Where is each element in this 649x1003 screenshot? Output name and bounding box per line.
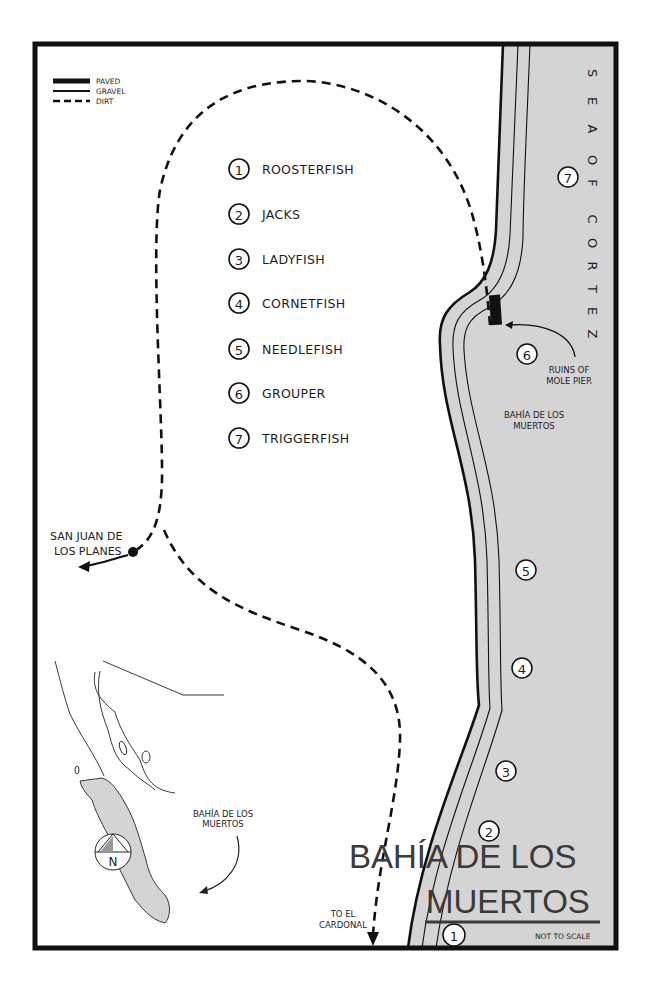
label-ruins-line1: RUINS OF	[549, 365, 590, 375]
inset-peninsula-north	[55, 661, 104, 776]
fishing-spot-7: 7	[558, 167, 578, 187]
fishing-spot-6: 6	[517, 344, 537, 364]
legend-label-paved: PAVED	[96, 77, 121, 86]
fish-name: GROUPER	[262, 386, 326, 401]
svg-text:Z: Z	[585, 330, 600, 339]
fish-key-item: 5 NEEDLEFISH	[229, 339, 343, 359]
fish-key-item: 3 LADYFISH	[229, 249, 325, 269]
fish-key-item: 4 CORNETFISH	[229, 293, 345, 313]
svg-text:5: 5	[522, 564, 530, 579]
legend: PAVED GRAVEL DIRT	[53, 77, 126, 106]
svg-text:1: 1	[450, 929, 458, 944]
svg-text:T: T	[585, 284, 600, 293]
svg-text:C: C	[585, 214, 600, 223]
compass-label: N	[109, 855, 118, 869]
svg-text:7: 7	[235, 432, 243, 447]
not-to-scale-note: NOT TO SCALE	[535, 932, 591, 941]
label-ruins-line2: MOLE PIER	[546, 376, 592, 386]
fish-name: CORNETFISH	[262, 296, 345, 311]
legend-label-gravel: GRAVEL	[96, 87, 126, 96]
fish-name: NEEDLEFISH	[262, 342, 343, 357]
svg-text:R: R	[585, 261, 600, 270]
inset-pointer-arrowhead-icon	[199, 886, 208, 894]
svg-text:6: 6	[523, 348, 531, 363]
svg-text:1: 1	[235, 163, 243, 178]
compass-north-icon: N	[95, 834, 131, 870]
san-juan-junction-dot	[128, 547, 138, 557]
label-bay-line2: MUERTOS	[513, 421, 555, 431]
label-cardonal-line2: CARDONAL	[319, 920, 367, 930]
label-bay-line1: BAHÍA DE LOS	[504, 409, 564, 420]
fish-name: TRIGGERFISH	[261, 431, 349, 446]
svg-text:5: 5	[235, 343, 243, 358]
map-title-line1: BAHÍA DE LOS	[349, 838, 576, 875]
inset-gulf-coast	[98, 671, 155, 790]
svg-text:E: E	[585, 307, 600, 315]
fish-name: JACKS	[261, 207, 300, 222]
inset-border-line	[103, 661, 224, 695]
fish-key-item: 7 TRIGGERFISH	[229, 428, 349, 448]
fishing-spot-3: 3	[496, 761, 516, 781]
svg-text:3: 3	[502, 765, 510, 780]
fish-name: LADYFISH	[262, 252, 325, 267]
svg-text:6: 6	[235, 387, 243, 402]
fish-key-item: 1 ROOSTERFISH	[229, 159, 354, 179]
svg-text:O: O	[585, 238, 600, 248]
fishing-spot-1: 1	[443, 924, 465, 946]
inset-label-line1: BAHÍA DE LOS	[193, 808, 253, 819]
svg-text:O: O	[585, 155, 600, 165]
svg-text:7: 7	[564, 171, 572, 186]
fish-key: 1 ROOSTERFISH 2 JACKS 3 LADYFISH 4 CORNE…	[229, 159, 354, 448]
fishing-spot-4: 4	[512, 658, 532, 678]
arrow-to-san-juan-icon	[78, 561, 90, 572]
svg-text:E: E	[585, 97, 600, 105]
dirt-road-loop	[133, 81, 490, 552]
svg-text:2: 2	[235, 208, 243, 223]
label-san-juan-line1: SAN JUAN DE	[50, 530, 122, 543]
svg-text:4: 4	[235, 297, 243, 312]
inset-label-line2: MUERTOS	[202, 819, 244, 829]
label-cardonal-line1: TO EL	[330, 909, 356, 919]
fish-name: ROOSTERFISH	[262, 162, 354, 177]
baja-inset-map	[55, 661, 224, 923]
fish-key-item: 2 JACKS	[229, 204, 300, 224]
svg-text:3: 3	[235, 253, 243, 268]
legend-label-dirt: DIRT	[96, 97, 114, 106]
fishing-spot-5: 5	[516, 560, 536, 580]
label-san-juan-line2: LOS PLANES	[54, 545, 122, 558]
fish-key-item: 6 GROUPER	[229, 383, 326, 403]
svg-text:A: A	[585, 125, 600, 134]
fishing-map: PAVED GRAVEL DIRT SAN JUAN DE LOS PLANES…	[0, 0, 649, 1003]
arrow-to-cardonal-icon	[367, 932, 379, 946]
map-title-line2: MUERTOS	[426, 883, 590, 920]
svg-text:4: 4	[518, 662, 526, 677]
svg-text:F: F	[585, 179, 600, 186]
mole-pier-ruins	[489, 295, 502, 326]
inset-pointer-arrow	[204, 836, 239, 891]
svg-text:S: S	[585, 69, 600, 77]
